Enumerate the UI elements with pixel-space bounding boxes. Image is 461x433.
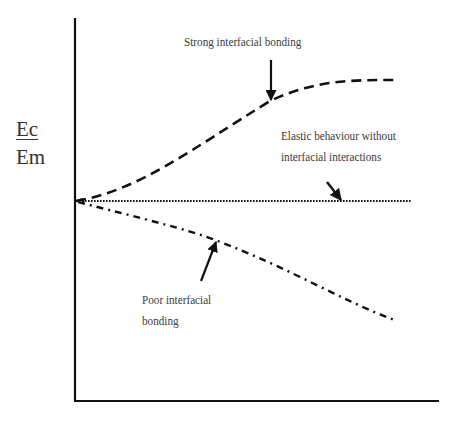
annotation-poor-line2: bonding xyxy=(142,313,179,329)
annotation-strong-bonding: Strong interfacial bonding xyxy=(184,34,301,50)
y-axis-label-numerator: Ec xyxy=(16,117,38,141)
arrow-poor-icon xyxy=(201,242,216,281)
series-poor-bonding-line xyxy=(78,202,397,321)
annotation-elastic-line1: Elastic behaviour without xyxy=(281,128,396,144)
annotation-poor-line1: Poor interfacial xyxy=(142,292,211,308)
chart-canvas xyxy=(0,0,461,433)
annotation-elastic-line2: interfacial interactions xyxy=(281,149,381,165)
y-axis-label-denominator: Em xyxy=(16,145,45,169)
arrow-elastic-icon xyxy=(327,182,341,200)
